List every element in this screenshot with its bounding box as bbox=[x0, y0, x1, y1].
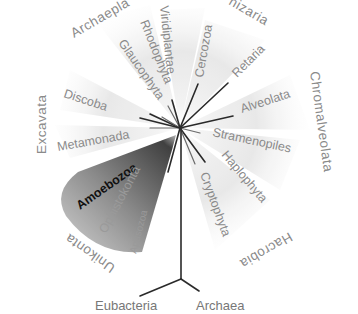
eubacteria-branch bbox=[140, 279, 181, 296]
label-hacrobia: Hacrobia bbox=[237, 229, 295, 271]
label-archaea: Archaea bbox=[196, 298, 245, 313]
tree-of-life-diagram: Glaucophyta Rhodophyta Viridiplantae Cer… bbox=[0, 0, 358, 314]
label-rhizaria: hizaria bbox=[227, 0, 272, 28]
label-eubacteria: Eubacteria bbox=[95, 298, 158, 313]
label-excavata: Excavata bbox=[34, 94, 49, 154]
archaea-branch bbox=[181, 279, 199, 291]
label-chromalveolata: Chromalveolata bbox=[307, 70, 336, 173]
